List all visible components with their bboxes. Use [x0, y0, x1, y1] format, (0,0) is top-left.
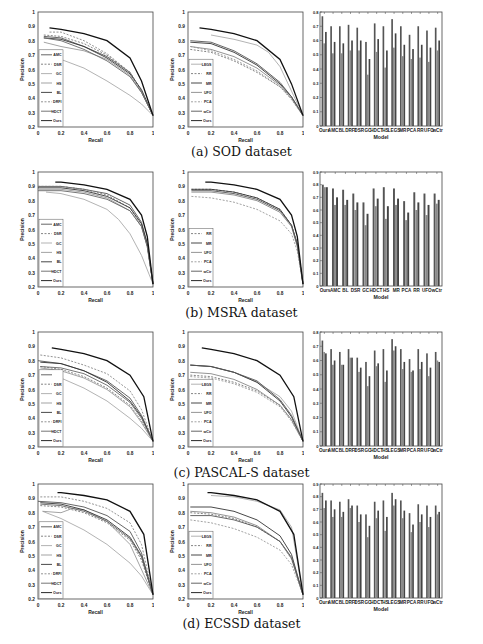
bar-ours-f-measure: [326, 187, 328, 286]
svg-text:1: 1: [302, 451, 304, 456]
svg-text:1: 1: [302, 603, 304, 608]
svg-text:0.4: 0.4: [231, 131, 238, 136]
svg-text:UFO: UFO: [204, 91, 212, 95]
svg-text:0.3: 0.3: [313, 401, 319, 406]
svg-text:Precision: Precision: [169, 530, 175, 553]
pr-curve-svg: 0.20.30.40.50.60.70.80.9100.20.40.60.81R…: [14, 328, 154, 468]
bar-legs-f-measure: [395, 33, 397, 126]
svg-text:0.4: 0.4: [81, 291, 88, 296]
bar-dsr-recall: [358, 522, 360, 598]
svg-text:0.4: 0.4: [313, 387, 319, 392]
bar-chart-svg: 00.10.20.30.40.50.60.70.80.9OursAMCBLDRF…: [312, 480, 447, 620]
bar-dsr-recall: [358, 372, 360, 446]
bar-gc-recall: [367, 386, 369, 446]
chart-msra-pr-2: 0.20.30.40.50.60.70.80.9100.20.40.60.81R…: [164, 168, 304, 312]
bar-legs-recall: [393, 506, 395, 598]
bar-mr-precision: [400, 349, 402, 446]
bar-bl-f-measure: [346, 200, 348, 286]
bar-bl-precision: [342, 190, 344, 286]
svg-text:BL: BL: [339, 448, 345, 453]
svg-text:0.8: 0.8: [28, 39, 35, 44]
bar-drfi-recall: [349, 508, 351, 598]
svg-text:0.6: 0.6: [178, 68, 185, 73]
svg-text:RR: RR: [206, 392, 212, 396]
svg-text:1: 1: [182, 330, 185, 335]
bar-wctr-f-measure: [438, 512, 440, 598]
svg-text:0.1: 0.1: [313, 429, 319, 434]
bar-hs-recall: [385, 219, 387, 286]
bar-rr-f-measure: [421, 45, 423, 126]
svg-text:PCA: PCA: [402, 288, 412, 293]
svg-text:0.2: 0.2: [313, 95, 319, 100]
bar-dsr-precision: [352, 194, 354, 286]
pr-curve-svg: 0.20.30.40.50.60.70.80.9100.20.40.60.81R…: [14, 480, 154, 620]
svg-text:Recall: Recall: [238, 137, 253, 143]
svg-text:AMC: AMC: [53, 525, 62, 529]
svg-text:0.8: 0.8: [277, 131, 284, 136]
svg-text:0.6: 0.6: [178, 388, 185, 393]
svg-text:1: 1: [182, 482, 185, 487]
svg-text:0.8: 0.8: [313, 330, 319, 335]
svg-text:Model: Model: [374, 294, 390, 300]
bar-legs-recall: [393, 351, 395, 446]
svg-text:1: 1: [152, 451, 154, 456]
bar-ours-recall: [323, 352, 325, 446]
chart-ecssd-pr-2: 0.20.30.40.50.60.70.80.9100.20.40.60.81R…: [164, 480, 304, 624]
caption-msra: (b) MSRA dataset: [0, 305, 483, 320]
svg-text:MR: MR: [206, 82, 212, 86]
svg-text:0.6: 0.6: [313, 208, 319, 213]
svg-text:DSR: DSR: [354, 128, 364, 133]
svg-text:0.5: 0.5: [28, 82, 35, 87]
svg-text:0.3: 0.3: [178, 583, 185, 588]
bar-drfi-precision: [348, 349, 350, 446]
svg-text:BL: BL: [57, 411, 63, 415]
svg-text:RR: RR: [206, 232, 212, 236]
bar-gc-f-measure: [369, 59, 371, 126]
bar-hdct-f-measure: [377, 511, 379, 598]
bar-wctr-precision: [435, 352, 437, 446]
svg-text:0.7: 0.7: [28, 525, 35, 530]
bar-amc-f-measure: [334, 509, 336, 598]
svg-text:HS: HS: [383, 288, 389, 293]
pr-curve-svg: 0.20.30.40.50.60.70.80.9100.20.40.60.81R…: [164, 8, 304, 148]
bar-amc-precision: [330, 26, 332, 126]
bar-rr-recall: [415, 210, 417, 286]
svg-text:wCtr: wCtr: [432, 448, 443, 453]
svg-text:0.6: 0.6: [254, 291, 261, 296]
bar-wctr-f-measure: [438, 41, 440, 127]
bar-amc-precision: [330, 500, 332, 598]
svg-text:0.3: 0.3: [313, 246, 319, 251]
bar-gc-recall: [367, 75, 369, 126]
svg-text:0.2: 0.2: [313, 415, 319, 420]
svg-text:0.8: 0.8: [127, 451, 134, 456]
bar-amc-f-measure: [334, 42, 336, 126]
bar-hs-precision: [383, 500, 385, 598]
svg-text:0.2: 0.2: [178, 285, 185, 290]
bar-wctr-f-measure: [438, 200, 440, 286]
svg-text:MR: MR: [206, 242, 212, 246]
svg-text:1: 1: [182, 10, 185, 15]
svg-text:0.4: 0.4: [28, 96, 35, 101]
svg-text:0.6: 0.6: [28, 388, 35, 393]
svg-text:Recall: Recall: [88, 457, 103, 463]
svg-text:Ours: Ours: [53, 279, 61, 283]
svg-text:DSR: DSR: [54, 63, 62, 67]
bar-hs-recall: [384, 531, 386, 598]
bar-ufo-precision: [426, 31, 428, 126]
svg-text:0.7: 0.7: [313, 344, 319, 349]
bar-drfi-f-measure: [351, 506, 353, 598]
svg-text:0.4: 0.4: [178, 416, 185, 421]
svg-text:Precision: Precision: [169, 218, 175, 241]
svg-text:PCA: PCA: [407, 128, 417, 133]
svg-text:0.9: 0.9: [28, 496, 35, 501]
svg-text:0: 0: [187, 131, 190, 136]
bar-rr-f-measure: [421, 362, 423, 446]
pr-curve-svg: 0.20.30.40.50.60.70.80.9100.20.40.60.81R…: [164, 480, 304, 620]
bar-ours-precision: [322, 185, 324, 286]
svg-text:AMC: AMC: [53, 223, 62, 227]
bar-amc-precision: [330, 349, 332, 446]
svg-text:GC: GC: [56, 242, 62, 246]
bar-rr-precision: [413, 192, 415, 286]
bar-mr-recall: [402, 56, 404, 126]
bar-dsr-precision: [356, 506, 358, 598]
